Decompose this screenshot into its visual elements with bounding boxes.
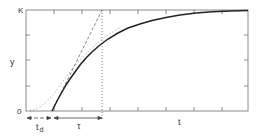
model-response-curve	[52, 11, 248, 111]
bottom-ticks	[54, 107, 222, 111]
k-label: K	[18, 6, 24, 15]
tau-label: τ	[77, 121, 81, 131]
td-label: td	[36, 122, 44, 133]
y-axis-label: y	[10, 57, 15, 67]
x-axis-label: t	[178, 117, 181, 127]
zero-label: 0	[17, 107, 22, 116]
td-dimension-arrow	[27, 117, 51, 120]
left-ticks	[26, 35, 30, 86]
tau-dimension-arrow	[54, 117, 102, 120]
step-response-chart: K y 0 t td τ	[0, 0, 256, 137]
right-ticks	[244, 35, 248, 86]
